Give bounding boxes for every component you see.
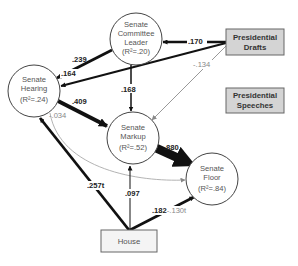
drafts-line1: Presidential <box>233 33 277 42</box>
node-presidential-drafts: Presidential Drafts <box>226 29 284 55</box>
node-hearing-line2: Hearing <box>21 84 48 93</box>
node-hearing-line1: Senate <box>22 75 46 84</box>
label-drafts-leader: .170 <box>188 37 203 46</box>
label-house-floor-main: .182 <box>152 206 167 215</box>
label-house-floor: .182-.130t <box>152 206 187 215</box>
node-leader-r2: (R²=.20) <box>122 47 151 56</box>
node-house: House <box>101 230 157 252</box>
node-hearing: Senate Hearing (R²=.24) <box>8 65 60 117</box>
label-hearing-markup: .409 <box>72 97 87 106</box>
node-markup: Senate Markup (R²=.52) <box>107 112 159 164</box>
label-drafts-markup: -.134 <box>193 60 210 69</box>
node-floor-line2: Floor <box>203 173 221 182</box>
node-leader-line3: Leader <box>124 38 148 47</box>
label-house-floor-secondary: -.130t <box>167 206 187 215</box>
label-hearing-floor: -.034 <box>49 111 66 120</box>
label-markup-floor: .880 <box>164 143 179 152</box>
node-markup-line2: Markup <box>120 132 145 141</box>
node-floor-line1: Senate <box>200 164 224 173</box>
node-presidential-speeches: Presidential Speeches <box>226 88 284 113</box>
edge-drafts-to-markup <box>152 45 227 120</box>
speeches-line1: Presidential <box>233 91 277 100</box>
node-markup-line1: Senate <box>121 123 145 132</box>
node-leader-line1: Senate <box>124 20 148 29</box>
label-leader-markup: .168 <box>121 85 136 94</box>
label-drafts-hearing: .164 <box>61 69 77 78</box>
house-label: House <box>118 237 141 246</box>
speeches-line2: Speeches <box>237 101 274 110</box>
node-markup-r2: (R²=.52) <box>119 143 148 152</box>
node-floor-r2: (R²=.84) <box>198 184 227 193</box>
node-floor: Senate Floor (R²=.84) <box>186 153 238 205</box>
path-diagram: .170 .164 -.134 .239 .168 .409 -.034 .88… <box>0 0 298 266</box>
node-committee-leader: Senate Committee Leader (R²=.20) <box>110 13 162 65</box>
node-leader-line2: Committee <box>118 29 155 38</box>
node-hearing-r2: (R²=.24) <box>20 95 49 104</box>
label-house-hearing: .257t <box>87 181 105 190</box>
label-house-markup: .097 <box>125 189 140 198</box>
label-leader-hearing: .239 <box>72 55 87 64</box>
drafts-line2: Drafts <box>244 43 267 52</box>
